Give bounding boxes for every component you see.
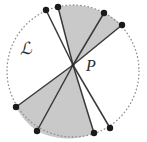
point-p-label: P (86, 57, 96, 75)
figure-container: ℒ P (0, 0, 147, 142)
boundary-point-c (101, 10, 107, 16)
circle-sector-diagram (0, 0, 147, 142)
boundary-point-b (55, 4, 61, 10)
boundary-point-d (119, 22, 125, 28)
boundary-point-f (91, 130, 97, 136)
boundary-point-h (13, 104, 19, 110)
circle-label: ℒ (18, 37, 32, 58)
boundary-point-g (34, 128, 40, 134)
boundary-point-e (107, 125, 113, 131)
boundary-point-a (43, 7, 49, 13)
apex-point-p-marker (71, 63, 74, 66)
